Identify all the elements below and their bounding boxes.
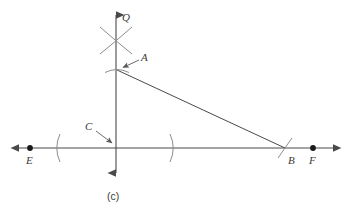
geometry-figure: Q A C E B F (c) (0, 0, 350, 213)
point-label-F: F (309, 155, 316, 166)
point-label-B: B (288, 155, 295, 166)
point-dot-E (27, 145, 33, 151)
point-label-E: E (26, 155, 33, 166)
point-label-Q: Q (122, 12, 130, 23)
construction-drawing (0, 0, 350, 213)
leader-arrow-to-C (96, 131, 112, 143)
leader-arrow-to-A (123, 60, 139, 68)
segment-A-to-B (117, 70, 285, 148)
arc-at-point-A (105, 70, 129, 73)
point-label-A: A (141, 52, 148, 63)
point-dot-F (310, 145, 316, 151)
point-label-C: C (85, 121, 92, 132)
figure-caption: (c) (107, 191, 119, 202)
